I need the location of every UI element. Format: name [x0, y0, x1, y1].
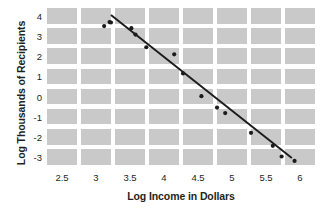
- x-axis-tick-labels: 2.533.544.555.56: [0, 172, 321, 186]
- data-point: [133, 32, 137, 36]
- x-tick-label: 5.5: [259, 172, 272, 183]
- y-tick-label: -2: [24, 131, 42, 142]
- x-tick-label: 4.5: [191, 172, 204, 183]
- y-tick-label: 3: [24, 31, 42, 42]
- y-tick-label: 2: [24, 51, 42, 62]
- x-axis-title: Log Income in Dollars: [45, 190, 317, 202]
- data-point: [144, 45, 148, 49]
- x-tick-label: 3: [93, 172, 98, 183]
- x-tick-label: 4: [161, 172, 166, 183]
- data-point: [102, 24, 106, 28]
- x-tick-label: 2.5: [55, 172, 68, 183]
- data-point: [292, 159, 296, 163]
- data-point: [199, 94, 203, 98]
- data-point: [271, 144, 275, 148]
- data-point: [172, 52, 176, 56]
- y-tick-label: 0: [24, 91, 42, 102]
- x-tick-label: 5: [229, 172, 234, 183]
- data-point: [109, 20, 113, 24]
- data-point: [181, 71, 185, 75]
- regression-line: [111, 15, 292, 158]
- data-point: [280, 154, 284, 158]
- data-point: [215, 106, 219, 110]
- data-point: [223, 111, 227, 115]
- y-tick-label: 1: [24, 71, 42, 82]
- y-tick-label: -1: [24, 111, 42, 122]
- y-tick-label: -3: [24, 151, 42, 162]
- x-tick-label: 3.5: [123, 172, 136, 183]
- x-tick-label: 6: [297, 172, 302, 183]
- scatter-plot-figure: Log Thousands of Recipients 43210-1-2-3 …: [0, 0, 321, 213]
- plot-area: [45, 8, 317, 169]
- data-layer: [45, 8, 317, 169]
- data-point: [249, 131, 253, 135]
- data-point: [129, 26, 133, 30]
- y-tick-label: 4: [24, 11, 42, 22]
